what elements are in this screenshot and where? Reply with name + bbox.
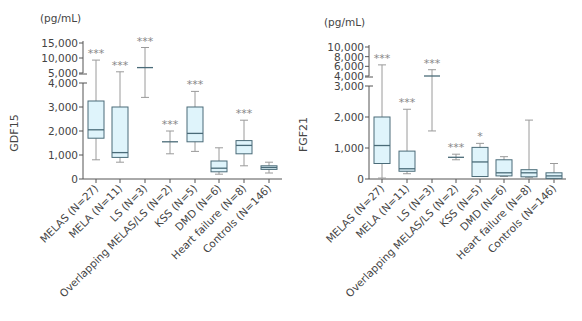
- y-tick-label: 2,000: [48, 125, 78, 137]
- significance-label: ***: [137, 35, 154, 48]
- significance-label: ***: [424, 57, 441, 70]
- box-iqr: [374, 117, 390, 164]
- significance-label: ***: [187, 78, 204, 91]
- box-iqr: [496, 160, 512, 176]
- significance-label: ***: [374, 52, 391, 65]
- significance-label: ***: [88, 47, 105, 60]
- y-tick-label: 1,000: [334, 142, 364, 154]
- significance-label: ***: [399, 96, 416, 109]
- y-tick-label: 15,000: [41, 37, 78, 49]
- significance-label: ***: [448, 141, 465, 154]
- significance-label: *: [477, 130, 483, 143]
- box-5: DMD (N=6): [172, 148, 227, 233]
- y-tick-label: 2,000: [334, 111, 364, 123]
- y-tick-label: 1,000: [48, 149, 78, 161]
- box-iqr: [112, 107, 128, 157]
- box-iqr: [211, 161, 227, 172]
- y-axis-label: FGF21: [297, 117, 310, 152]
- significance-label: ***: [236, 107, 253, 120]
- box-iqr: [236, 141, 252, 154]
- chart-canvas: (pg/mL)GDF1501,0002,0003,0004,0005,00010…: [0, 0, 582, 321]
- y-tick-label: 5,000: [48, 67, 78, 79]
- y-tick-label: 0: [357, 173, 364, 185]
- unit-label: (pg/mL): [324, 16, 365, 28]
- y-tick-label: 0: [71, 173, 78, 185]
- box-iqr: [187, 107, 203, 142]
- y-tick-label: 3,000: [48, 101, 78, 113]
- y-tick-label: 10,000: [327, 41, 364, 53]
- box-plot-gdf15: (pg/mL)GDF1501,0002,0003,0004,0005,00010…: [8, 12, 282, 299]
- significance-label: ***: [162, 118, 179, 131]
- box-iqr: [88, 101, 104, 138]
- y-axis-label: GDF15: [8, 114, 21, 151]
- y-tick-label: 10,000: [41, 52, 78, 64]
- significance-label: ***: [112, 59, 129, 72]
- unit-label: (pg/mL): [40, 12, 81, 24]
- box-plot-fgf21: (pg/mL)FGF2101,0002,0003,0004,0006,0008,…: [297, 16, 566, 299]
- box-7: Controls (N=146): [200, 162, 277, 255]
